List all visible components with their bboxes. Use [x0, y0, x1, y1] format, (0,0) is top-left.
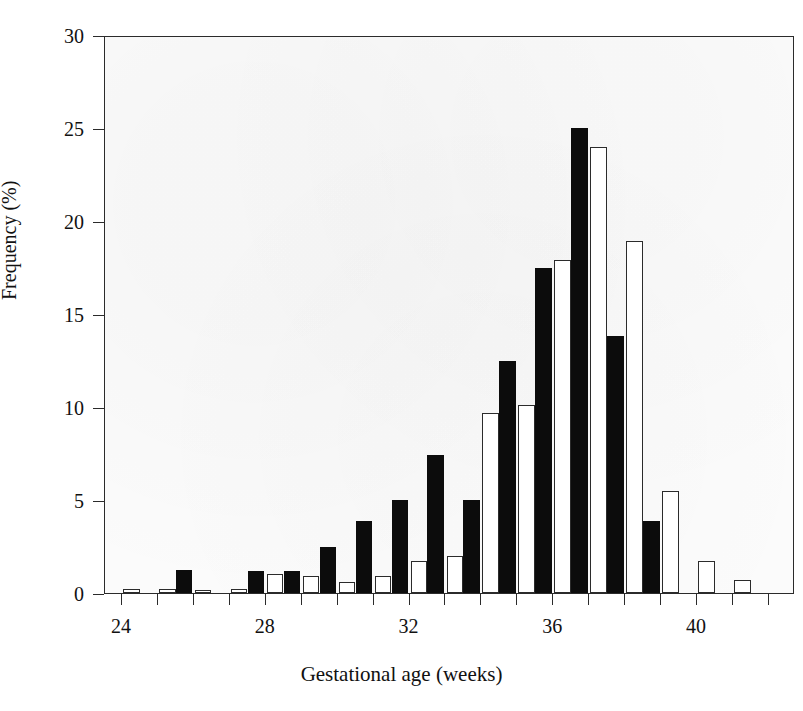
- bar-black-week-28: [248, 571, 265, 593]
- y-tick-label-30: 30: [64, 26, 84, 46]
- y-tick-label-5: 5: [74, 491, 84, 511]
- bar-black-week-36: [535, 268, 552, 594]
- y-tick-mark-30: [93, 36, 104, 37]
- x-tick-mark-38: [624, 594, 625, 605]
- bar-white-week-27: [231, 589, 248, 593]
- bar-black-week-32: [392, 500, 409, 593]
- x-tick-label-28: 28: [255, 616, 275, 636]
- x-tick-mark-25: [157, 594, 158, 605]
- bar-white-week-39: [662, 491, 679, 593]
- y-tick-mark-25: [93, 129, 104, 130]
- bar-white-week-41: [734, 580, 751, 593]
- bar-white-week-37: [590, 147, 607, 593]
- y-tick-mark-0: [93, 594, 104, 595]
- x-tick-mark-34: [480, 594, 481, 605]
- y-tick-label-25: 25: [64, 119, 84, 139]
- y-tick-mark-10: [93, 408, 104, 409]
- x-tick-mark-36: [552, 594, 553, 605]
- bar-black-week-30: [320, 547, 337, 594]
- y-tick-mark-5: [93, 501, 104, 502]
- x-tick-mark-31: [373, 594, 374, 605]
- y-tick-label-10: 10: [64, 398, 84, 418]
- x-tick-mark-32: [409, 594, 410, 605]
- x-tick-mark-39: [660, 594, 661, 605]
- bar-black-week-39: [643, 521, 660, 593]
- x-axis-title: Gestational age (weeks): [0, 662, 803, 687]
- x-tick-mark-40: [696, 594, 697, 605]
- bar-black-week-35: [499, 361, 516, 594]
- bar-white-week-26: [195, 590, 212, 593]
- plot-area: [104, 36, 794, 594]
- x-tick-mark-29: [301, 594, 302, 605]
- bar-white-week-25: [159, 589, 176, 593]
- bar-white-week-29: [303, 576, 320, 593]
- y-axis-title: Frequency (%): [0, 181, 21, 300]
- y-tick-label-15: 15: [64, 305, 84, 325]
- x-tick-mark-37: [588, 594, 589, 605]
- bar-white-week-31: [375, 576, 392, 593]
- x-tick-mark-33: [444, 594, 445, 605]
- bar-white-week-40: [698, 561, 715, 593]
- bar-black-week-26: [176, 570, 193, 593]
- bar-white-week-33: [447, 556, 464, 593]
- x-tick-mark-30: [337, 594, 338, 605]
- x-tick-label-32: 32: [399, 616, 419, 636]
- x-tick-label-24: 24: [111, 616, 131, 636]
- x-tick-label-36: 36: [542, 616, 562, 636]
- x-tick-label-40: 40: [686, 616, 706, 636]
- bar-black-week-33: [427, 455, 444, 593]
- bar-black-week-29: [284, 571, 301, 593]
- y-tick-mark-15: [93, 315, 104, 316]
- y-tick-mark-20: [93, 222, 104, 223]
- x-tick-mark-26: [193, 594, 194, 605]
- x-tick-mark-35: [516, 594, 517, 605]
- y-tick-label-0: 0: [74, 584, 84, 604]
- x-tick-mark-27: [229, 594, 230, 605]
- bar-white-week-24: [123, 589, 140, 593]
- bar-black-week-37: [571, 128, 588, 593]
- bar-black-week-31: [356, 521, 373, 593]
- bar-white-week-35: [518, 405, 535, 593]
- x-tick-mark-42: [768, 594, 769, 605]
- bar-black-week-34: [463, 500, 480, 593]
- y-tick-label-20: 20: [64, 212, 84, 232]
- bar-white-week-38: [626, 241, 643, 593]
- x-tick-mark-24: [121, 594, 122, 605]
- bar-white-week-30: [339, 582, 356, 593]
- bar-series-group: [105, 37, 793, 593]
- bar-white-week-32: [411, 561, 428, 593]
- bar-white-week-34: [482, 413, 499, 593]
- x-tick-mark-41: [732, 594, 733, 605]
- bar-white-week-28: [267, 574, 284, 593]
- bar-white-week-36: [554, 260, 571, 593]
- x-tick-mark-28: [265, 594, 266, 605]
- figure-container: 051015202530 2428323640 Frequency (%) Ge…: [0, 0, 803, 711]
- bar-black-week-38: [607, 336, 624, 593]
